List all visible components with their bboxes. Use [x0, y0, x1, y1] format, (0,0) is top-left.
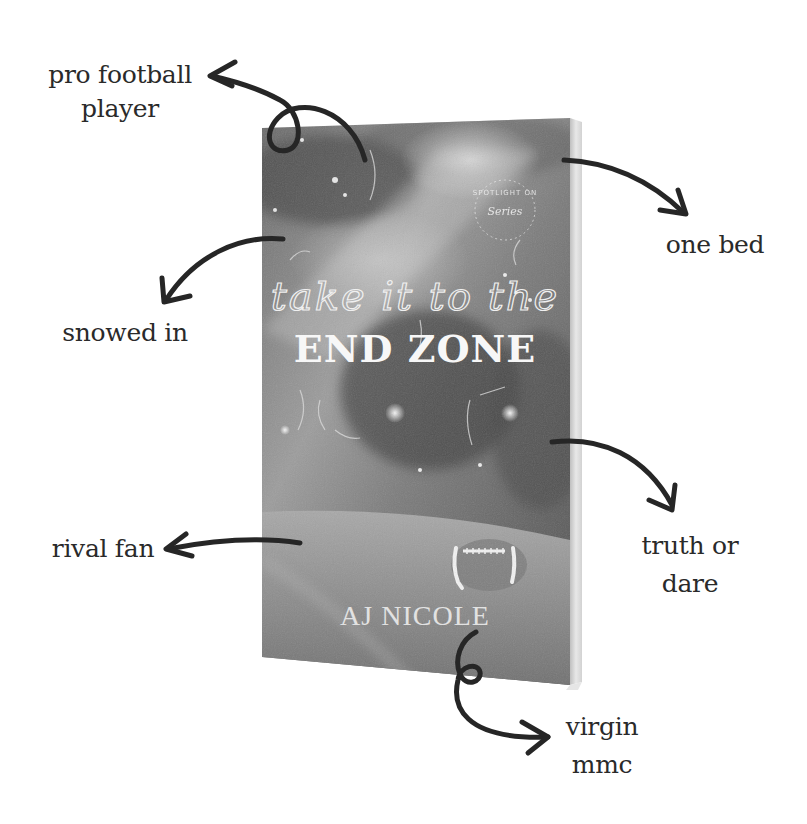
- arrow-one-bed: [564, 160, 686, 214]
- trope-line: truth or: [625, 527, 755, 565]
- trope-line: player: [30, 92, 210, 126]
- trope-infographic: SPOTLIGHT ON Series take it to the END Z…: [0, 0, 807, 824]
- trope-truth-or-dare: truth or dare: [625, 527, 755, 603]
- trope-line: pro football: [30, 58, 210, 92]
- trope-one-bed: one bed: [650, 228, 780, 262]
- trope-pro-football-player: pro football player: [30, 58, 210, 126]
- trope-line: snowed in: [45, 316, 205, 350]
- cover-author: AJ NICOLE: [340, 600, 490, 631]
- trope-line: mmc: [552, 746, 652, 784]
- book-front-cover: SPOTLIGHT ON Series take it to the END Z…: [240, 110, 590, 700]
- trope-virgin-mmc: virgin mmc: [552, 708, 652, 784]
- cover-script-title: take it to the: [271, 273, 560, 319]
- trope-rival-fan: rival fan: [40, 532, 166, 566]
- trope-line: virgin: [552, 708, 652, 746]
- trope-snowed-in: snowed in: [45, 316, 205, 350]
- trope-line: dare: [625, 565, 755, 603]
- series-badge-bottom: Series: [488, 205, 523, 218]
- trope-line: rival fan: [40, 532, 166, 566]
- cover-main-title: END ZONE: [294, 326, 536, 371]
- trope-line: one bed: [650, 228, 780, 262]
- series-badge-top: SPOTLIGHT ON: [473, 189, 537, 197]
- book-page-edge: [570, 118, 582, 685]
